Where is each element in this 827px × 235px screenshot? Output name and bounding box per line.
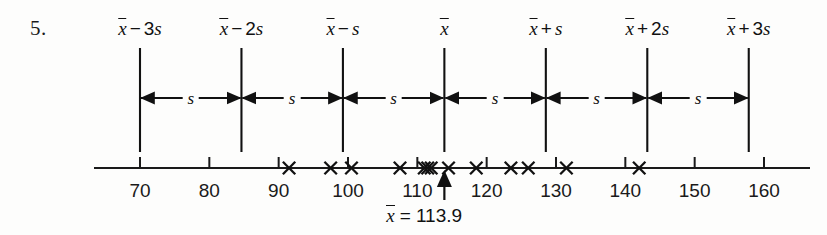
sd-label-s-symbol: s [352, 18, 359, 39]
sd-label-1: x−2s [220, 18, 264, 40]
axis-tick-label-70: 70 [129, 180, 150, 202]
axis-tick-label-120: 120 [471, 180, 503, 202]
axis-tick-label-90: 90 [268, 180, 289, 202]
sd-label-s-symbol: s [154, 18, 161, 39]
equals-sign: = [395, 205, 416, 226]
sd-label-coefficient: 2 [245, 18, 256, 39]
sd-label-operator: + [538, 18, 555, 39]
sd-label-6: x+3s [727, 18, 771, 40]
sd-label-coefficient: 3 [144, 18, 155, 39]
axis-tick-label-80: 80 [199, 180, 220, 202]
sd-label-operator: + [634, 18, 651, 39]
axis-tick-label-110: 110 [402, 180, 432, 202]
sd-label-operator: − [335, 18, 352, 39]
axis-tick-label-100: 100 [332, 180, 364, 202]
sd-label-4: x+s [529, 18, 562, 40]
sd-label-operator: + [735, 18, 752, 39]
interval-label-s-0: s [182, 90, 199, 107]
interval-label-s-4: s [588, 90, 605, 107]
sd-label-s-symbol: s [555, 18, 562, 39]
sd-label-2: x−s [326, 18, 359, 40]
interval-label-s-2: s [385, 90, 402, 107]
mean-symbol: x [386, 205, 394, 226]
axis-tick-label-130: 130 [540, 180, 572, 202]
interval-label-s-3: s [487, 90, 504, 107]
sd-label-coefficient: 3 [753, 18, 764, 39]
interval-label-s-1: s [284, 90, 301, 107]
sd-label-s-symbol: s [763, 18, 770, 39]
sd-label-3: x [440, 18, 448, 40]
mean-pointer-group [437, 170, 452, 200]
sd-label-operator: − [127, 18, 144, 39]
standard-deviation-figure: 5. x−3sx−2sx−sxx+sx+2sx+3s ssssss 708090… [0, 0, 827, 235]
axis-tick-label-160: 160 [748, 180, 780, 202]
mean-value: 113.9 [416, 205, 462, 226]
interval-label-s-5: s [690, 90, 707, 107]
sd-label-operator: − [228, 18, 245, 39]
mean-readout: x=113.9 [386, 205, 462, 227]
sd-label-s-symbol: s [662, 18, 669, 39]
axis-tick-label-140: 140 [609, 180, 641, 202]
number-line-group [94, 157, 810, 168]
sd-label-s-symbol: s [256, 18, 263, 39]
sd-label-0: x−3s [118, 18, 162, 40]
sd-label-5: x+2s [626, 18, 670, 40]
axis-tick-label-150: 150 [679, 180, 711, 202]
sd-vertical-lines-group [140, 48, 749, 152]
sd-label-coefficient: 2 [651, 18, 662, 39]
sd-label-mean-symbol: x [440, 18, 448, 39]
